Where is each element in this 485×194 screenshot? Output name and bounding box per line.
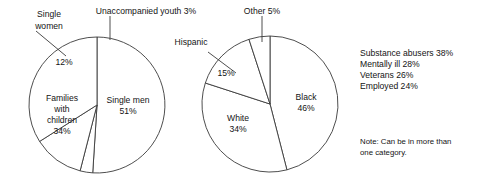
footnote: Note: Can be in more than one category. bbox=[360, 137, 451, 157]
pie-chart-household-type: Single men 51% Unaccompanied youth 3% Si… bbox=[29, 6, 197, 173]
pie1-label-families-line1: Families bbox=[46, 93, 78, 103]
charts-svg: Single men 51% Unaccompanied youth 3% Si… bbox=[0, 0, 485, 194]
stat-item-substance-abusers: Substance abusers 38% bbox=[360, 48, 454, 58]
pie2-value-white: 34% bbox=[229, 124, 247, 134]
pie2-label-other: Other 5% bbox=[244, 6, 281, 16]
pie-chart-race-ethnicity: Black 46% White 34% Hispanic 15% Other 5… bbox=[175, 6, 338, 172]
leader-line-single-women bbox=[36, 31, 66, 56]
pie2-slice-group bbox=[202, 36, 338, 172]
statistics-list: Substance abusers 38% Mentally ill 28% V… bbox=[360, 48, 454, 91]
pie1-label-single-men: Single men bbox=[107, 95, 150, 105]
footnote-line2: one category. bbox=[360, 148, 407, 157]
pie2-label-white: White bbox=[227, 113, 249, 123]
stat-item-employed: Employed 24% bbox=[360, 81, 418, 91]
pie-charts-figure: Single men 51% Unaccompanied youth 3% Si… bbox=[0, 0, 485, 194]
pie1-label-single-women-line1: Single bbox=[37, 9, 61, 19]
pie1-value-single-men: 51% bbox=[119, 106, 137, 116]
stat-item-mentally-ill: Mentally ill 28% bbox=[360, 59, 420, 69]
pie2-value-black: 46% bbox=[297, 103, 315, 113]
pie1-value-single-women: 12% bbox=[55, 57, 73, 67]
pie2-label-hispanic: Hispanic bbox=[175, 37, 209, 47]
pie1-value-families: 34% bbox=[53, 126, 71, 136]
pie1-label-unaccompanied-youth: Unaccompanied youth 3% bbox=[96, 6, 197, 16]
stat-item-veterans: Veterans 26% bbox=[360, 70, 414, 80]
pie1-label-families-line2: with bbox=[53, 104, 70, 114]
pie1-label-families-line3: children bbox=[47, 115, 77, 125]
pie2-value-hispanic: 15% bbox=[217, 68, 235, 78]
footnote-line1: Note: Can be in more than bbox=[360, 137, 451, 146]
pie2-label-black: Black bbox=[295, 92, 317, 102]
pie1-label-single-women-line2: women bbox=[34, 21, 63, 31]
